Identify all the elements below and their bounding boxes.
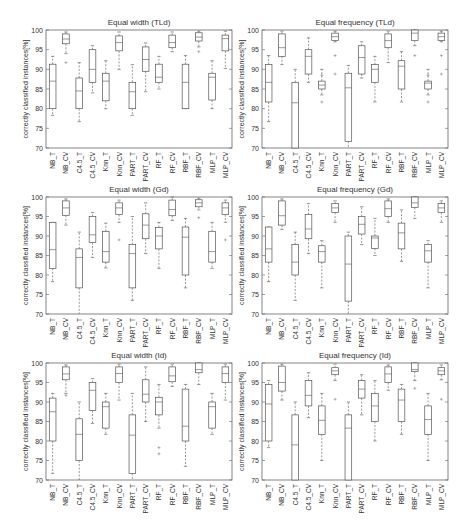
x-tick-label: Knn_T — [318, 484, 326, 503]
box-MLP_T — [425, 241, 432, 288]
box-MLP_CV — [438, 31, 445, 75]
x-tick-label: RF_CV — [169, 483, 177, 505]
y-tick-label: 80 — [35, 272, 43, 279]
box-PART_T — [345, 232, 352, 314]
box-RBF_T — [182, 218, 189, 287]
box-MLP_CV — [222, 200, 229, 241]
box-MLP_T — [209, 61, 216, 109]
box-RF_T — [372, 381, 379, 441]
y-tick-label: 70 — [251, 145, 259, 152]
x-tick-label: Knn_CV — [332, 317, 340, 342]
x-tick-label: RBF_CV — [411, 317, 419, 343]
y-tick-label: 100 — [31, 360, 43, 367]
chart-title: Equal frequency (TLd) — [315, 18, 394, 27]
chart-title: Equal width (Gd) — [109, 185, 169, 194]
x-tick-label: Knn_CV — [116, 483, 124, 508]
x-tick-label: Knn_T — [318, 152, 326, 171]
box-NB_CV — [63, 199, 70, 225]
box-C4.5_T — [292, 402, 299, 480]
x-tick-label: PART_CV — [358, 317, 366, 347]
box-NB_CV — [63, 365, 70, 397]
x-tick-label: PART_T — [129, 318, 137, 342]
x-tick-label: Knn_CV — [332, 483, 340, 508]
y-axis-label: correctly classified instances[%] — [22, 40, 30, 139]
y-tick-label: 85 — [251, 86, 259, 93]
x-tick-label: MLP_T — [209, 484, 217, 505]
box-MLP_CV — [438, 201, 445, 222]
y-tick-label: 90 — [35, 399, 43, 406]
y-tick-label: 75 — [251, 125, 259, 132]
chart-panel-6: Equal frequency (Id)correctly classified… — [238, 351, 448, 513]
x-tick-label: Knn_CV — [116, 151, 124, 176]
x-tick-label: MLP_T — [425, 152, 433, 173]
x-tick-label: MLP_CV — [222, 483, 230, 510]
x-tick-label: NB_T — [49, 318, 57, 335]
x-tick-label: C4.5_T — [76, 484, 84, 505]
box-RF_CV — [169, 364, 176, 386]
chart-panel-3: Equal width (Gd)correctly classified ins… — [22, 185, 232, 347]
x-tick-label: C4.5_T — [76, 152, 84, 173]
box-MLP_CV — [222, 364, 229, 400]
box-C4.5_T — [76, 232, 83, 314]
y-tick-label: 95 — [251, 379, 259, 386]
x-tick-label: MLP_CV — [222, 317, 230, 344]
chart-title: Equal width (TLd) — [108, 18, 171, 27]
box-Knn_T — [102, 223, 109, 268]
box-RBF_CV — [411, 363, 418, 390]
y-tick-label: 75 — [251, 291, 259, 298]
box-Knn_T — [318, 393, 325, 460]
x-tick-label: PART_T — [345, 484, 353, 508]
x-tick-label: NB_T — [49, 484, 57, 501]
x-tick-label: RF_T — [155, 318, 163, 334]
box-RF_T — [372, 218, 379, 255]
y-tick-label: 75 — [35, 125, 43, 132]
x-tick-label: RBF_CV — [411, 151, 419, 177]
box-RBF_CV — [411, 30, 418, 57]
x-tick-label: C4.5_CV — [89, 317, 97, 344]
x-tick-label: RF_CV — [385, 317, 393, 339]
x-tick-label: RF_T — [371, 318, 379, 334]
y-axis-label: correctly classified instances[%] — [238, 40, 246, 139]
y-tick-label: 85 — [35, 252, 43, 259]
chart-panel-1: Equal width (TLd)correctly classified in… — [22, 18, 232, 181]
x-tick-label: NB_CV — [278, 151, 286, 173]
box-MLP_T — [209, 222, 216, 268]
box-Knn_CV — [332, 201, 339, 222]
y-axis-label: correctly classified instances[%] — [238, 372, 246, 471]
x-tick-label: NB_T — [49, 152, 57, 169]
box-NB_T — [265, 381, 272, 448]
x-tick-label: RF_T — [371, 484, 379, 500]
box-RBF_CV — [195, 198, 202, 219]
x-tick-label: RBF_T — [182, 484, 190, 505]
x-tick-label: Knn_CV — [116, 317, 124, 342]
x-tick-label: NB_CV — [62, 317, 70, 339]
box-NB_T — [49, 222, 56, 281]
y-tick-label: 90 — [35, 233, 43, 240]
x-tick-label: MLP_T — [209, 318, 217, 339]
y-tick-label: 85 — [35, 86, 43, 93]
x-tick-label: C4.5_T — [76, 318, 84, 339]
box-Knn_CV — [116, 200, 123, 241]
y-tick-label: 70 — [251, 477, 259, 484]
plot-area — [46, 30, 232, 148]
y-tick-label: 100 — [247, 194, 259, 201]
box-NB_T — [49, 56, 56, 115]
x-tick-label: C4.5_CV — [89, 151, 97, 178]
chart-panel-5: Equal width (Id)correctly classified ins… — [22, 351, 232, 513]
box-RF_T — [156, 56, 163, 89]
box-RBF_T — [182, 56, 189, 109]
x-tick-label: PART_T — [345, 318, 353, 342]
y-tick-label: 90 — [35, 66, 43, 73]
x-tick-label: MLP_T — [209, 152, 217, 173]
box-RBF_T — [182, 384, 189, 466]
chart-title: Equal frequency (Gd) — [317, 185, 393, 194]
box-PART_T — [129, 65, 136, 116]
x-tick-label: PART_T — [345, 152, 353, 176]
box-RBF_T — [398, 52, 405, 102]
x-tick-label: MLP_CV — [438, 317, 446, 344]
y-tick-label: 100 — [31, 194, 43, 201]
y-tick-label: 90 — [251, 399, 259, 406]
box-MLP_CV — [438, 365, 445, 401]
x-tick-label: RBF_CV — [195, 483, 203, 509]
box-RF_CV — [385, 31, 392, 62]
